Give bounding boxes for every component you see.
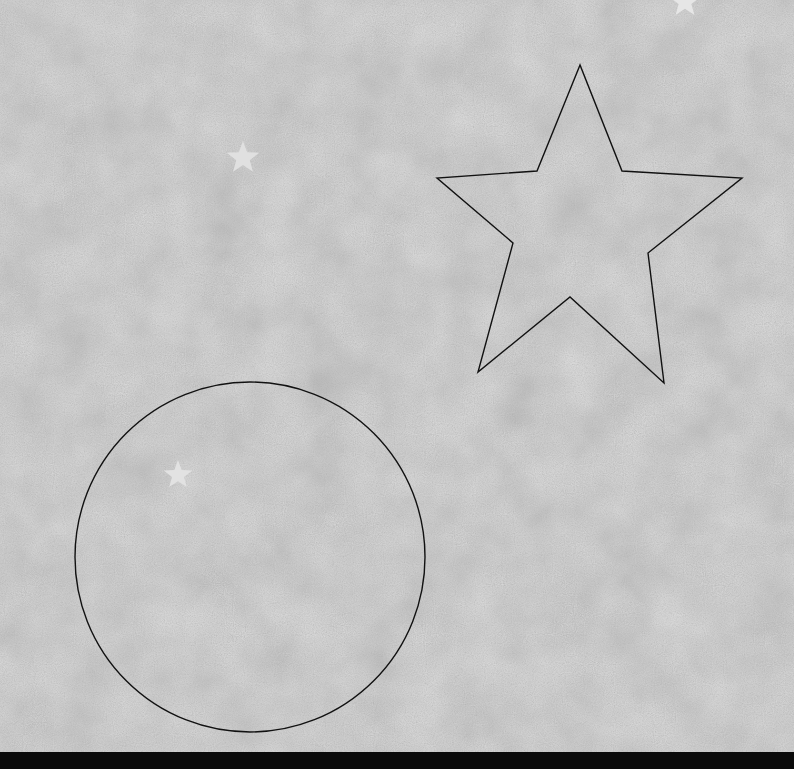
bottom-black-bar: [0, 752, 794, 769]
drawing-canvas: [0, 0, 794, 769]
paper-noise: [0, 0, 794, 769]
